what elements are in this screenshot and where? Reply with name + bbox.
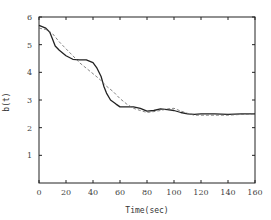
x-tick-label: 120 bbox=[193, 188, 208, 197]
y-axis-label: b(t) bbox=[2, 92, 11, 111]
x-tick-label: 20 bbox=[61, 188, 71, 197]
x-tick-label: 0 bbox=[36, 188, 41, 197]
x-tick-label: 140 bbox=[220, 188, 235, 197]
x-tick-label: 40 bbox=[88, 188, 98, 197]
x-tick-label: 160 bbox=[247, 188, 262, 197]
series-solid-line bbox=[39, 25, 255, 114]
y-axis-ticks: 123456 bbox=[27, 13, 255, 160]
x-axis-ticks: 020406080100120140160 bbox=[36, 17, 262, 197]
x-tick-label: 100 bbox=[166, 188, 181, 197]
data-series bbox=[39, 25, 255, 115]
line-chart: 020406080100120140160 123456 Time(sec) b… bbox=[0, 0, 271, 220]
plot-frame bbox=[39, 17, 255, 183]
y-tick-label: 5 bbox=[27, 41, 32, 50]
x-tick-label: 80 bbox=[142, 188, 152, 197]
y-tick-label: 3 bbox=[27, 96, 32, 105]
x-axis-label: Time(sec) bbox=[125, 206, 168, 215]
y-tick-label: 6 bbox=[27, 13, 32, 22]
y-tick-label: 2 bbox=[27, 124, 32, 133]
y-tick-label: 4 bbox=[27, 68, 32, 77]
series-dashed-line bbox=[39, 28, 255, 115]
x-tick-label: 60 bbox=[115, 188, 125, 197]
y-tick-label: 1 bbox=[27, 151, 32, 160]
